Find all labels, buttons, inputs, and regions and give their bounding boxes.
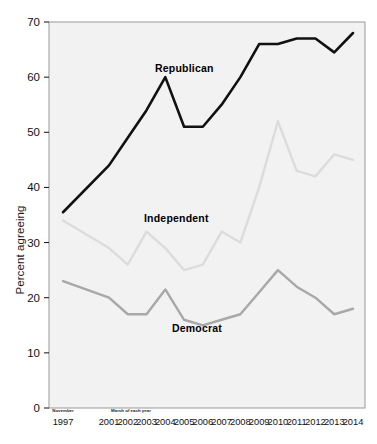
x-axis-tick-label: 2009 xyxy=(249,417,270,427)
x-axis-tick-label: 2006 xyxy=(193,417,214,427)
x-axis-tick-label: 2014 xyxy=(343,417,364,427)
series-label-independent: Independent xyxy=(144,212,209,224)
x-axis: 1997200120022003200420052006200720082009… xyxy=(53,417,364,427)
y-axis-tick-label: 20 xyxy=(27,292,40,304)
x-axis-tick-label: 2010 xyxy=(268,417,289,427)
y-axis-label: Percent agreeing xyxy=(14,205,26,294)
x-axis-tick-label: 2005 xyxy=(174,417,195,427)
x-axis-tick-label: 2013 xyxy=(324,417,345,427)
x-axis-tick-label: 2001 xyxy=(99,417,120,427)
x-axis-tick-label: 2007 xyxy=(211,417,232,427)
x-axis-tick-label: 2002 xyxy=(117,417,138,427)
series-label-democrat: Democrat xyxy=(172,322,222,334)
series-label-republican: Republican xyxy=(155,62,214,74)
y-axis-tick-label: 0 xyxy=(34,402,40,414)
x-axis-note-march: March of each year xyxy=(111,408,151,413)
x-axis-tick-label: 2008 xyxy=(230,417,251,427)
y-axis-tick-label: 60 xyxy=(27,71,40,83)
x-axis-note-november: November xyxy=(52,408,74,413)
chart-canvas: 010203040506070 199720012002200320042005… xyxy=(0,0,377,444)
x-axis-tick-label: 2011 xyxy=(287,417,307,427)
y-axis-tick-label: 40 xyxy=(27,181,40,193)
y-axis-tick-label: 10 xyxy=(27,347,40,359)
y-axis-tick-label: 70 xyxy=(27,16,40,28)
line-chart-container: 010203040506070 199720012002200320042005… xyxy=(0,0,377,444)
x-axis-tick-label: 2012 xyxy=(305,417,326,427)
y-axis-tick-label: 50 xyxy=(27,126,40,138)
x-axis-tick-label: 1997 xyxy=(53,417,74,427)
x-axis-tick-label: 2003 xyxy=(136,417,157,427)
x-axis-tick-label: 2004 xyxy=(155,417,176,427)
y-axis-tick-label: 30 xyxy=(27,237,40,249)
